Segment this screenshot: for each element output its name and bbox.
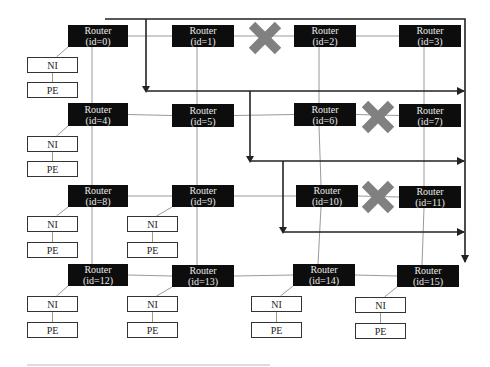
router-label: Router xyxy=(397,265,459,276)
pe-box-9: PE xyxy=(127,242,178,258)
router-10: Router(id=10) xyxy=(296,185,358,207)
router-id-label: (id=3) xyxy=(399,36,461,47)
router-5: Router(id=5) xyxy=(172,104,234,127)
router-15: Router(id=15) xyxy=(397,265,459,287)
pe-box-12: PE xyxy=(27,322,78,338)
router-label: Router xyxy=(68,25,128,36)
pe-box-13: PE xyxy=(127,322,178,338)
link-12-13 xyxy=(128,275,172,276)
router-id-label: (id=11) xyxy=(399,197,461,208)
ni-box-13: NI xyxy=(127,296,178,312)
router-id-label: (id=10) xyxy=(296,196,358,207)
router-label: Router xyxy=(294,25,356,36)
router-12: Router(id=12) xyxy=(68,264,128,286)
drop-arrowhead-2 xyxy=(246,156,254,163)
router-0: Router(id=0) xyxy=(68,25,128,47)
router-label: Router xyxy=(399,186,461,197)
router-label: Router xyxy=(172,105,234,116)
router-id-label: (id=9) xyxy=(172,196,234,207)
ni-box-0: NI xyxy=(27,57,78,73)
router-label: Router xyxy=(172,265,234,276)
router-label: Router xyxy=(399,105,461,116)
link-router-ni-14 xyxy=(281,286,294,296)
pe-box-0: PE xyxy=(27,82,78,98)
router-3: Router(id=3) xyxy=(399,25,461,47)
link-router-ni-0 xyxy=(57,47,69,57)
router-id-label: (id=13) xyxy=(172,276,234,287)
link-14-15 xyxy=(355,275,397,276)
ni-box-14: NI xyxy=(251,296,302,312)
ni-box-15: NI xyxy=(355,297,406,313)
link-11-15 xyxy=(422,208,424,265)
drop-arrowhead-3 xyxy=(279,227,287,234)
link-13-14 xyxy=(234,275,293,276)
router-8: Router(id=8) xyxy=(68,185,128,207)
router-label: Router xyxy=(294,104,356,115)
noc-mesh-diagram: Router(id=0)Router(id=1)Router(id=2)Rout… xyxy=(0,0,490,367)
router-label: Router xyxy=(172,25,234,36)
router-14: Router(id=14) xyxy=(293,264,355,286)
link-router-ni-12 xyxy=(57,286,69,296)
drop-arrowhead-1 xyxy=(142,86,150,93)
router-label: Router xyxy=(293,264,355,275)
router-id-label: (id=0) xyxy=(68,36,128,47)
link-router-ni-13 xyxy=(157,287,173,296)
router-id-label: (id=12) xyxy=(68,275,128,286)
router-2: Router(id=2) xyxy=(294,25,356,47)
ni-box-8: NI xyxy=(27,216,78,232)
router-4: Router(id=4) xyxy=(68,103,128,126)
pe-box-15: PE xyxy=(355,323,406,339)
router-id-label: (id=4) xyxy=(68,115,128,126)
router-id-label: (id=6) xyxy=(294,115,356,126)
router-9: Router(id=9) xyxy=(172,185,234,207)
router-6: Router(id=6) xyxy=(294,103,356,126)
router-id-label: (id=5) xyxy=(172,116,234,127)
link-5-6 xyxy=(234,115,294,116)
router-id-label: (id=8) xyxy=(68,196,128,207)
router-label: Router xyxy=(68,185,128,196)
router-label: Router xyxy=(68,104,128,115)
fault-x-icon xyxy=(365,104,391,130)
link-router-ni-15 xyxy=(385,287,398,297)
router-13: Router(id=13) xyxy=(172,265,234,287)
link-router-ni-9 xyxy=(157,207,173,216)
fault-x-icon xyxy=(252,25,278,51)
router-label: Router xyxy=(68,264,128,275)
router-id-label: (id=15) xyxy=(397,276,459,287)
router-7: Router(id=7) xyxy=(399,104,461,127)
router-label: Router xyxy=(399,25,461,36)
pe-box-8: PE xyxy=(27,242,78,258)
router-1: Router(id=1) xyxy=(172,25,234,47)
router-id-label: (id=2) xyxy=(294,36,356,47)
link-router-ni-8 xyxy=(57,207,69,216)
link-6-10 xyxy=(319,126,321,185)
router-id-label: (id=14) xyxy=(293,275,355,286)
ni-box-9: NI xyxy=(127,216,178,232)
router-id-label: (id=1) xyxy=(172,36,234,47)
ni-box-4: NI xyxy=(27,136,78,152)
pe-box-4: PE xyxy=(27,161,78,177)
router-11: Router(id=11) xyxy=(399,186,461,208)
router-label: Router xyxy=(172,185,234,196)
router-label: Router xyxy=(296,185,358,196)
router-id-label: (id=7) xyxy=(399,116,461,127)
link-4-5 xyxy=(128,115,172,116)
pe-box-14: PE xyxy=(251,322,302,338)
ni-box-12: NI xyxy=(27,296,78,312)
link-router-ni-4 xyxy=(57,126,69,136)
link-10-14 xyxy=(318,207,321,264)
